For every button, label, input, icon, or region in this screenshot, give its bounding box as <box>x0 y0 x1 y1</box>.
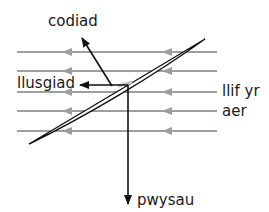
airflow-arrowhead <box>62 107 72 115</box>
drag-label: llusgiad <box>17 76 75 91</box>
weight-label: pwysau <box>137 193 194 208</box>
airflow-arrowhead <box>62 127 72 135</box>
lift-arrow <box>82 38 112 86</box>
airflow-label-line2: aer <box>222 104 247 119</box>
airflow-arrowhead <box>162 67 172 75</box>
airflow-label-line1: llif yr <box>222 84 260 99</box>
airflow-arrowhead <box>162 48 172 56</box>
wing-forces-diagram: codiad llusgiad llif yr aer pwysau <box>0 0 269 212</box>
airflow-arrowhead <box>162 107 172 115</box>
airflow-arrowhead <box>62 48 72 56</box>
airflow-arrowhead <box>162 127 172 135</box>
lift-label: codiad <box>48 14 98 29</box>
airflow-arrowhead <box>162 88 172 96</box>
force-arrows <box>80 38 128 204</box>
